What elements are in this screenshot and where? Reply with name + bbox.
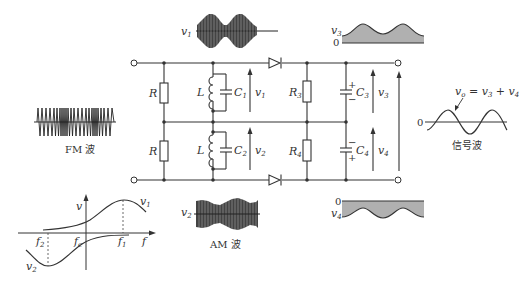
svg-text:0: 0 bbox=[417, 117, 423, 128]
signal-waveform: vo = v3 + v4 0 信号波 bbox=[417, 85, 519, 151]
diode-bottom bbox=[269, 175, 281, 186]
svg-text:0: 0 bbox=[335, 196, 341, 207]
v1-arrow bbox=[248, 68, 253, 112]
response-plot: v f f2 fc f1 v1 v2 bbox=[18, 194, 156, 274]
svg-text:v2: v2 bbox=[181, 206, 192, 220]
y-axis-label: v bbox=[76, 200, 83, 213]
label-v2: v2 bbox=[255, 144, 266, 158]
label-r3: R3 bbox=[288, 86, 302, 100]
c3-minus: − bbox=[348, 94, 356, 105]
label-r-bottom: R bbox=[148, 145, 157, 158]
v3-waveform: v3 0 bbox=[331, 24, 424, 48]
v4-waveform: 0 v4 bbox=[331, 196, 424, 221]
label-r4: R4 bbox=[288, 145, 302, 159]
label-l-top: L bbox=[196, 86, 204, 99]
resistor-r-top bbox=[160, 83, 168, 103]
am-waveform-v2: v2 AM 波 bbox=[181, 198, 260, 250]
c4-minus: − bbox=[348, 137, 356, 148]
vo-arrow bbox=[397, 71, 402, 171]
label-l-bottom: L bbox=[196, 144, 204, 157]
output-terminal-bottom bbox=[395, 177, 401, 183]
inductor-l-bottom bbox=[209, 135, 213, 167]
signal-caption: 信号波 bbox=[452, 139, 482, 151]
resistor-r-bottom bbox=[160, 141, 168, 161]
label-r-top: R bbox=[148, 87, 157, 100]
f2-label: f2 bbox=[35, 235, 45, 249]
resistor-r4 bbox=[303, 140, 311, 161]
v1-curve-label: v1 bbox=[140, 195, 151, 209]
lc-tank-bottom bbox=[209, 122, 232, 182]
label-v4: v4 bbox=[378, 144, 389, 158]
c4-plus: + bbox=[348, 152, 356, 163]
fc-label: fc bbox=[73, 235, 82, 249]
svg-text:v4: v4 bbox=[331, 207, 342, 221]
label-v3: v3 bbox=[378, 86, 389, 100]
c3-plus: + bbox=[348, 79, 356, 90]
v2-arrow bbox=[248, 127, 253, 170]
discriminator-diagram: R R L L C1 C2 v1 v2 R3 R4 C3 C4 + − − + … bbox=[0, 0, 519, 284]
fm-caption: FM 波 bbox=[65, 143, 95, 155]
vo-equation: vo = v3 + v4 bbox=[455, 85, 519, 99]
input-terminal-top bbox=[131, 60, 137, 66]
v4-arrow bbox=[371, 127, 376, 171]
svg-text:v1: v1 bbox=[181, 25, 192, 39]
inductor-l-top bbox=[209, 77, 213, 109]
f1-label: f1 bbox=[117, 235, 127, 249]
label-c4: C4 bbox=[356, 144, 369, 158]
x-axis-label: f bbox=[141, 235, 148, 248]
circuit: R R L L C1 C2 v1 v2 R3 R4 C3 C4 + − − + … bbox=[131, 58, 402, 186]
label-v1: v1 bbox=[255, 86, 266, 100]
diode-top bbox=[269, 58, 281, 69]
v2-curve-label: v2 bbox=[26, 260, 37, 274]
resistor-r3 bbox=[303, 81, 311, 102]
output-terminal-top bbox=[395, 60, 401, 66]
svg-text:v3: v3 bbox=[331, 24, 342, 38]
label-c3: C3 bbox=[356, 86, 369, 100]
am-waveform-v1: v1 bbox=[181, 14, 278, 48]
capacitor-c3 bbox=[340, 61, 352, 124]
fm-waveform: FM 波 bbox=[34, 108, 116, 155]
label-c2: C2 bbox=[234, 144, 247, 158]
svg-text:0: 0 bbox=[333, 37, 339, 48]
lc-tank-top bbox=[209, 61, 232, 124]
v3-arrow bbox=[371, 69, 376, 113]
am-caption: AM 波 bbox=[209, 238, 241, 250]
label-c1: C1 bbox=[234, 86, 247, 100]
v1-curve bbox=[43, 200, 146, 230]
input-terminal-bottom bbox=[131, 177, 137, 183]
